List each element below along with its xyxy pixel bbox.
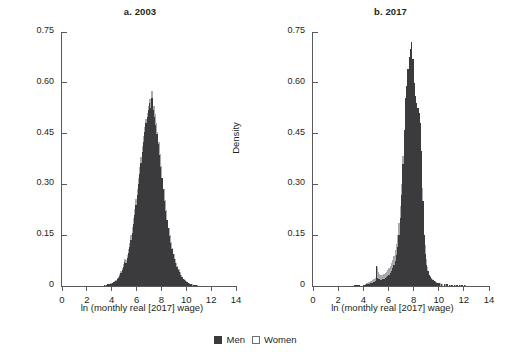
bar-men [449,285,450,286]
y-tick-label: 0.45 [36,127,54,137]
tick-mark [211,286,212,291]
tick-mark [388,286,389,291]
bar-men [441,284,442,286]
bar-men [461,285,462,286]
tick-mark [136,286,137,291]
bar-men [451,285,452,286]
bar-men [456,285,457,286]
tick-mark [463,286,464,291]
panel-a-title: a. 2003 [0,6,256,17]
bar-men [358,285,359,286]
y-tick-label: 0.45 [287,127,305,137]
bar-men [459,285,460,286]
bar-men [444,284,445,286]
y-tick-label: 0.60 [287,76,305,86]
panel-b-y-axis-label: Density [230,122,241,154]
bar-men [196,285,197,286]
y-tick-label: 0.60 [36,76,54,86]
panel-a-plot-area: 00.150.300.450.600.75 02468101214 [62,32,236,286]
tick-mark [338,286,339,291]
tick-mark [161,286,162,291]
tick-mark [236,286,237,291]
y-tick-label: 0.75 [287,25,305,35]
y-tick-label: 0 [300,279,305,289]
tick-mark [86,286,87,291]
panel-b-2017: b. 2017 Density 00.150.300.450.600.75 02… [252,0,511,330]
panel-a-bars [62,32,236,286]
tick-mark [111,286,112,291]
legend-item-women: Women [252,334,297,345]
bar-men [446,284,447,286]
legend-label-women: Women [264,334,297,345]
y-tick-label: 0 [49,279,54,289]
bar-men [454,285,455,286]
tick-mark [62,286,63,291]
panel-a-x-axis-label: ln (monthly real [2017] wage) [0,302,256,313]
panel-a-2003: a. 2003 Density 00.150.300.450.600.75 02… [0,0,256,330]
panel-b-x-axis-label: ln (monthly real [2017] wage) [252,302,511,313]
y-tick-label: 0.30 [287,177,305,187]
panel-b-bars [313,32,489,286]
bar-men [464,285,465,286]
y-tick-label: 0.75 [36,25,54,35]
y-tick-label: 0.30 [36,177,54,187]
legend-item-men: Men [214,334,244,345]
bar-men [439,283,440,286]
panel-b-plot-area: 00.150.300.450.600.75 02468101214 [313,32,489,286]
panel-b-title: b. 2017 [252,6,511,17]
y-tick-label: 0.15 [287,228,305,238]
tick-mark [363,286,364,291]
men-swatch-icon [214,336,222,344]
tick-mark [313,286,314,291]
tick-mark [489,286,490,291]
women-swatch-icon [252,336,260,344]
tick-mark [186,286,187,291]
legend-label-men: Men [226,334,244,345]
y-tick-label: 0.15 [36,228,54,238]
histogram-figure: a. 2003 Density 00.150.300.450.600.75 02… [0,0,511,352]
figure-legend: Men Women [0,334,511,345]
tick-mark [438,286,439,291]
tick-mark [413,286,414,291]
